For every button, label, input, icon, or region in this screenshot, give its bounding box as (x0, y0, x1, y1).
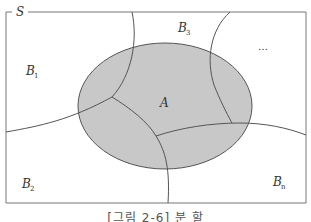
figure-caption: [그림 2-6] 분 할 (0, 208, 311, 222)
svg-text:3: 3 (186, 29, 190, 37)
svg-text:2: 2 (30, 185, 34, 193)
partition-b1-label: B 1 (25, 64, 38, 80)
more-partitions-ellipsis: … (258, 41, 268, 52)
partition-bn-label: B n (272, 175, 286, 191)
partition-b2-label: B 2 (21, 177, 34, 193)
partition-b3-label: B 3 (177, 21, 190, 37)
sample-space-label: S (16, 5, 24, 19)
svg-text:1: 1 (34, 72, 38, 80)
event-a-label: A (159, 96, 169, 110)
partition-diagram: S A B 1 B 2 B 3 B n … (0, 0, 311, 222)
svg-text:n: n (281, 183, 286, 191)
